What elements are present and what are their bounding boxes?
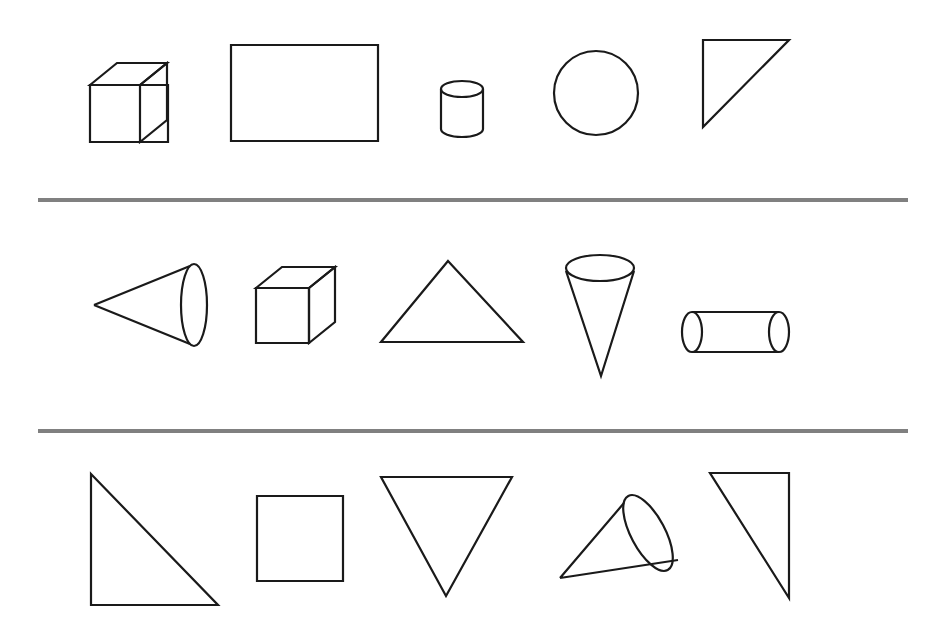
- cone-base-ellipse: [566, 255, 634, 281]
- circle[interactable]: [554, 51, 638, 135]
- triangle-upward[interactable]: [381, 261, 523, 342]
- shape-row-3: [91, 473, 789, 605]
- cylinder-vertical[interactable]: [441, 81, 483, 137]
- cube-front-face: [256, 288, 309, 343]
- triangle-inverted[interactable]: [381, 477, 512, 596]
- cylinder-horizontal[interactable]: [682, 312, 789, 352]
- cube[interactable]: [256, 267, 335, 343]
- cone-tilted[interactable]: [560, 488, 683, 578]
- rectangle[interactable]: [231, 45, 378, 141]
- shapes-svg: [0, 0, 947, 638]
- cone-pointing-left[interactable]: [94, 264, 207, 346]
- shape-row-1: [90, 40, 789, 142]
- cone-base-ellipse: [181, 264, 207, 346]
- cylinder-top-ellipse: [441, 81, 483, 97]
- cone-side-lines: [566, 271, 634, 376]
- square[interactable]: [257, 496, 343, 581]
- right-triangle-right-edge[interactable]: [710, 473, 789, 598]
- shape-row-2: [94, 255, 789, 376]
- cube[interactable]: [90, 63, 168, 142]
- cylinder-left-ellipse: [682, 312, 702, 352]
- cone-pointing-down[interactable]: [566, 255, 634, 376]
- cone-side-lines: [94, 266, 190, 344]
- worksheet-canvas: [0, 0, 947, 638]
- right-triangle-bottom-left[interactable]: [91, 474, 218, 605]
- right-triangle-top-left[interactable]: [703, 40, 789, 127]
